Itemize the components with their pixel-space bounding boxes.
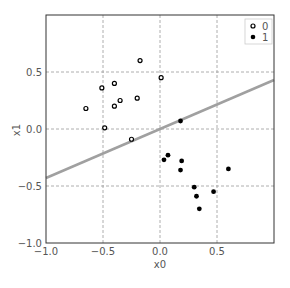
point-class-1 [166, 153, 171, 158]
point-class-1 [211, 189, 216, 194]
y-tick-label: 0.5 [26, 67, 42, 78]
point-class-0 [118, 99, 122, 103]
point-class-0 [112, 104, 116, 108]
legend-filled-circle-icon [251, 35, 256, 40]
legend: 0 1 [245, 19, 272, 44]
x-tick-label: −0.5 [91, 246, 115, 257]
x-tick-label: 0.5 [209, 246, 225, 257]
point-class-1 [178, 168, 183, 173]
legend-label-0: 0 [262, 21, 268, 32]
x-axis-label: x0 [154, 259, 166, 270]
decision-boundary-line [46, 80, 274, 178]
scatter-chart: −1.0−0.50.00.5 −1.0−0.50.00.5 x0 x1 0 1 [0, 0, 290, 288]
point-class-1 [178, 119, 183, 124]
legend-label-1: 1 [262, 32, 268, 43]
x-axis-ticks: −1.0−0.50.00.5 [34, 246, 225, 257]
point-class-0 [130, 137, 134, 141]
point-class-0 [112, 81, 116, 85]
boundary-line [46, 80, 274, 178]
y-axis-label: x1 [11, 124, 22, 136]
point-class-0 [84, 106, 88, 110]
point-class-0 [135, 96, 139, 100]
point-class-0 [138, 59, 142, 63]
point-class-1 [179, 159, 184, 164]
point-class-0 [159, 76, 163, 80]
point-class-0 [103, 126, 107, 130]
point-class-1 [197, 206, 202, 211]
point-class-1 [162, 157, 167, 162]
y-tick-label: 0.0 [26, 124, 42, 135]
y-tick-label: −0.5 [18, 181, 42, 192]
x-tick-label: 0.0 [152, 246, 168, 257]
point-class-1 [194, 194, 199, 199]
point-class-1 [226, 167, 231, 172]
y-tick-label: −1.0 [18, 238, 42, 249]
point-class-0 [100, 86, 104, 90]
data-points [84, 59, 231, 212]
point-class-1 [192, 185, 197, 190]
y-axis-ticks: −1.0−0.50.00.5 [18, 67, 42, 249]
legend-open-circle-icon [251, 24, 255, 28]
